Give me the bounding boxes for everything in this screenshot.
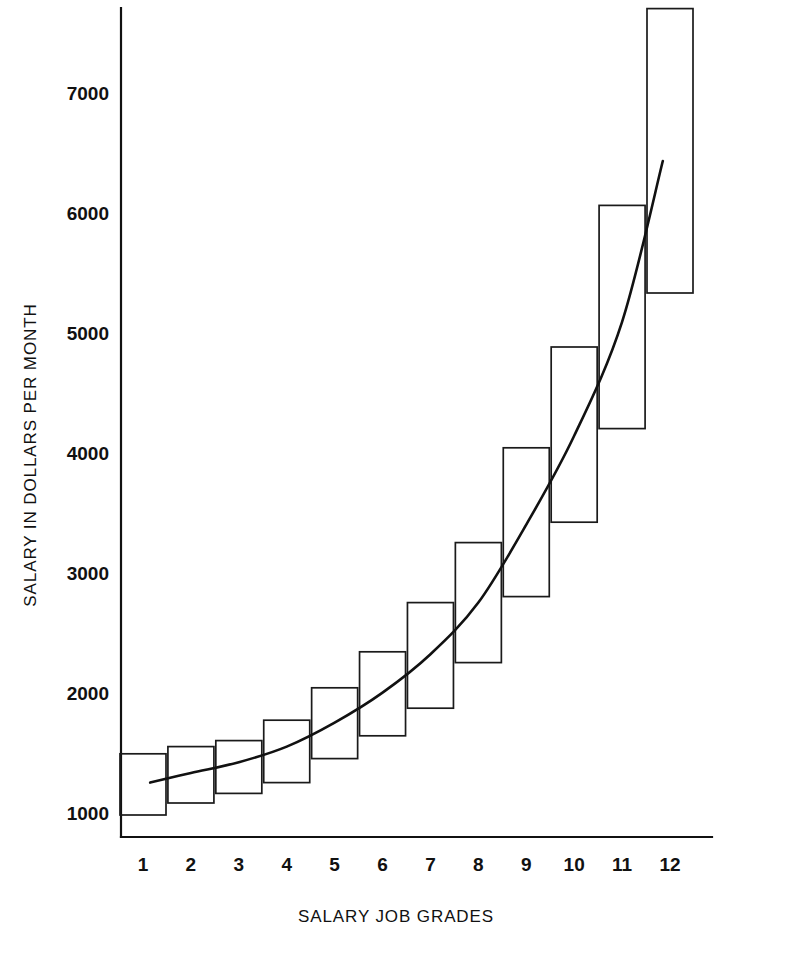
x-axis-tick-label: 6 [377, 854, 388, 875]
y-axis-tick-label: 2000 [67, 683, 109, 704]
y-axis-title: SALARY IN DOLLARS PER MONTH [21, 303, 40, 606]
grade-range-box [168, 747, 214, 803]
y-axis-tick-label: 6000 [67, 203, 109, 224]
x-axis-tick-label: 7 [425, 854, 436, 875]
x-axis-tick-label: 5 [329, 854, 340, 875]
midpoint-trend-curve [150, 161, 663, 783]
y-axis-tick-label: 1000 [67, 803, 109, 824]
x-axis-title: SALARY JOB GRADES [298, 907, 494, 926]
y-axis-tick-label: 3000 [67, 563, 109, 584]
chart-container: 1000200030004000500060007000 12345678910… [0, 0, 793, 963]
y-axis-tick-labels: 1000200030004000500060007000 [67, 83, 109, 824]
x-axis-tick-labels: 123456789101112 [138, 854, 681, 875]
x-axis-tick-label: 11 [612, 854, 633, 875]
grade-range-boxes [120, 9, 693, 815]
y-axis-tick-label: 5000 [67, 323, 109, 344]
x-axis-tick-label: 1 [138, 854, 149, 875]
grade-range-box [647, 9, 693, 293]
y-axis-tick-label: 7000 [67, 83, 109, 104]
x-axis-tick-label: 3 [234, 854, 245, 875]
x-axis-tick-label: 10 [564, 854, 585, 875]
x-axis-tick-label: 4 [281, 854, 292, 875]
x-axis-tick-label: 9 [521, 854, 532, 875]
x-axis-tick-label: 8 [473, 854, 484, 875]
x-axis-tick-label: 2 [186, 854, 197, 875]
salary-grade-chart: 1000200030004000500060007000 12345678910… [0, 0, 793, 963]
x-axis-tick-label: 12 [659, 854, 680, 875]
y-axis-tick-label: 4000 [67, 443, 109, 464]
grade-range-box [120, 754, 166, 815]
grade-range-box [599, 205, 645, 428]
